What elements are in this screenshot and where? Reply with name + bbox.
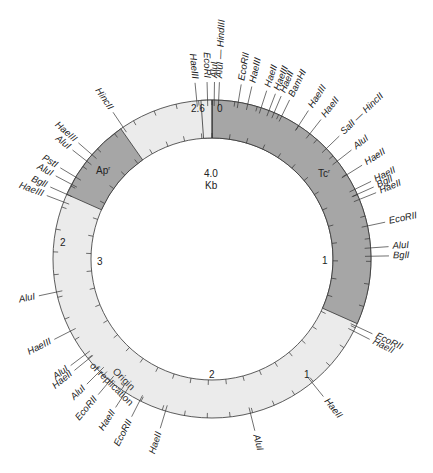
- restriction-site: EcoRI: [202, 52, 214, 106]
- gene-label-ap: Apr: [96, 165, 110, 176]
- site-leader-line: [308, 378, 323, 397]
- site-label: HaeII: [362, 145, 387, 167]
- site-label: HaeII: [146, 430, 163, 455]
- restriction-site: AluI: [17, 290, 63, 304]
- scale-label-1-inner: 1: [322, 255, 328, 266]
- site-label: HaeII: [96, 407, 118, 432]
- restriction-site: HaeII: [308, 378, 345, 421]
- site-label: HaeII: [322, 396, 345, 421]
- scale-label-0: 0: [217, 103, 223, 114]
- site-label: EcoRII: [111, 417, 134, 448]
- site-label: BglI: [393, 249, 410, 260]
- site-label: AluI: [17, 290, 37, 304]
- site-leader-line: [73, 150, 92, 165]
- site-label: AluI — HindIII: [213, 19, 227, 79]
- site-label: HaeIII: [188, 53, 201, 80]
- center-kb-value: 4.0: [204, 168, 218, 179]
- site-label: HaeIII: [25, 335, 53, 356]
- scale-label-2-outer: 2: [60, 237, 66, 248]
- scale-label-3: 3: [97, 256, 103, 267]
- restriction-site: HaeII: [348, 328, 396, 355]
- site-label: HincII: [93, 85, 116, 112]
- site-leader-line: [322, 136, 339, 153]
- scale-label-2-6: 2.6: [191, 103, 205, 114]
- scale-label-2-inner: 2: [209, 369, 215, 380]
- plasmid-map: HaeIIIEcoRIAluIAluI — HindIIIEcoRIIHaeII…: [0, 0, 433, 473]
- site-leader-line: [71, 351, 90, 365]
- site-leader-line: [306, 120, 321, 139]
- site-label: AluI: [350, 132, 371, 152]
- site-label: EcoRII: [388, 209, 419, 226]
- restriction-site: HaeII: [146, 405, 167, 455]
- site-label: SalI — HincII: [338, 90, 386, 137]
- restriction-site: HaeIII: [188, 53, 201, 107]
- restriction-site: AluI: [249, 407, 266, 451]
- restriction-site: EcoRII: [362, 209, 419, 227]
- site-leader-line: [333, 150, 352, 165]
- restriction-site: HaeIII: [25, 328, 75, 356]
- restriction-site: HincII: [93, 85, 126, 132]
- center-kb-unit: Kb: [205, 180, 218, 191]
- site-label: AluI: [251, 432, 266, 452]
- scale-label-1-outer: 1: [304, 369, 310, 380]
- site-leader-line: [78, 143, 96, 159]
- restriction-site: AluI — HindIII: [213, 19, 227, 106]
- restriction-site: BglI: [365, 249, 410, 260]
